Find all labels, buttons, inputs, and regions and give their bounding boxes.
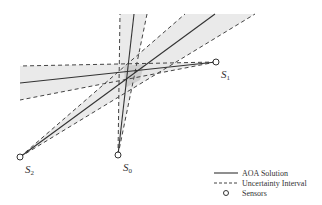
aoa-diagram: S0 S1 S2 AOA Solution Uncertainty Interv… — [0, 0, 322, 205]
sensor-s2-icon — [17, 154, 23, 160]
legend-label-aoa: AOA Solution — [242, 169, 288, 178]
legend-label-sensors: Sensors — [242, 189, 267, 198]
sensor-label-s1: S1 — [221, 68, 231, 82]
sensor-s1-icon — [213, 59, 219, 65]
legend-sensor-circle-icon — [224, 191, 229, 196]
legend: AOA Solution Uncertainty Interval Sensor… — [214, 169, 307, 198]
sensor-label-s2: S2 — [25, 163, 35, 177]
sensor-s0-icon — [115, 152, 121, 158]
legend-label-uncertainty: Uncertainty Interval — [242, 179, 307, 188]
sensor-label-s0: S0 — [123, 161, 133, 175]
